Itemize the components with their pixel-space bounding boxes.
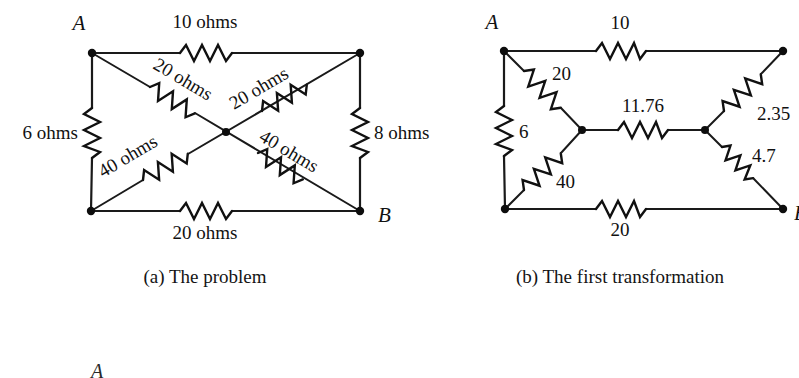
- panel-b-group: A B 10 6 20 20 40 11.76 2.35 4.7 (b) The…: [484, 10, 799, 288]
- node-a-top-left: [88, 49, 96, 57]
- panel-a-diag-tr-resistor-label: 20 ohms: [225, 62, 292, 113]
- panel-b-arm-ur-resistor-label: 2.35: [757, 103, 790, 124]
- wire-b-arm-ur-end: [761, 51, 783, 74]
- panel-a-terminal-a-label: A: [71, 11, 86, 35]
- panel-b-arm-ul-resistor-label: 20: [552, 63, 571, 84]
- circuit-figure-svg: A B 10 ohms 6 ohms 8 ohms 20 ohms 20 ohm…: [0, 0, 799, 378]
- panel-b-caption: (b) The first transformation: [516, 266, 725, 288]
- panel-b-terminal-b-label: B: [794, 201, 799, 225]
- wire-b-arm-ul-start: [504, 51, 524, 71]
- wire-b-arm-lr-end: [753, 178, 783, 209]
- panel-a-group: A B 10 ohms 6 ohms 8 ohms 20 ohms 20 ohm…: [23, 11, 430, 288]
- panel-b-arm-ll-resistor-label: 40: [556, 171, 575, 192]
- resistor-b-bottom-zigzag: [596, 201, 646, 217]
- wire-b-arm-ll-end: [561, 130, 582, 153]
- panel-b-terminal-a-label: A: [484, 10, 499, 34]
- wire-a-diag-tlbr-start: [92, 53, 150, 87]
- resistor-b-left-zigzag: [496, 106, 512, 156]
- node-b-star-left: [578, 126, 586, 134]
- wire-a-left-lower: [91, 158, 92, 211]
- node-a-bottom-right: [356, 207, 364, 215]
- panel-a-left-resistor-label: 6 ohms: [23, 122, 78, 143]
- resistor-a-left-zigzag: [84, 108, 100, 158]
- resistor-b-top-zigzag: [596, 43, 646, 59]
- figure-canvas: A B 10 ohms 6 ohms 8 ohms 20 ohms 20 ohm…: [0, 0, 799, 378]
- wire-b-arm-ur-start: [705, 111, 724, 130]
- node-b-top-right: [779, 47, 787, 55]
- panel-b-bottom-resistor-label: 20: [611, 219, 630, 240]
- resistor-a-top-zigzag: [180, 45, 232, 61]
- node-b-top-left: [500, 47, 508, 55]
- panel-a-bottom-resistor-label: 20 ohms: [173, 222, 238, 243]
- panel-a-diag-tl-resistor-label: 20 ohms: [150, 53, 217, 104]
- node-b-bottom-right: [779, 205, 787, 213]
- panel-a-top-resistor-label: 10 ohms: [173, 11, 238, 32]
- wire-b-arm-ul-end: [561, 108, 582, 130]
- panel-b-bridge-resistor-label: 11.76: [622, 95, 664, 116]
- node-a-bottom-left: [87, 207, 95, 215]
- wire-a-diag-bltr-start: [91, 180, 143, 211]
- panel-c-terminal-a-label: A: [89, 360, 104, 378]
- panel-b-left-resistor-label: 6: [519, 121, 529, 142]
- resistor-b-bridge-zigzag: [618, 122, 668, 138]
- panel-c-partial-group: A: [89, 360, 104, 378]
- resistor-a-right-zigzag: [352, 108, 368, 158]
- resistor-a-bottom-zigzag: [180, 203, 232, 219]
- wire-b-left-lower: [504, 156, 505, 209]
- node-a-top-right: [356, 49, 364, 57]
- node-b-bottom-left: [501, 205, 509, 213]
- wire-a-diag-tlbr-end: [195, 113, 360, 211]
- node-a-center: [222, 128, 230, 136]
- panel-a-caption: (a) The problem: [143, 266, 266, 288]
- node-b-star-right: [701, 126, 709, 134]
- panel-b-top-resistor-label: 10: [611, 12, 630, 33]
- panel-b-arm-lr-resistor-label: 4.7: [752, 145, 776, 166]
- panel-a-terminal-b-label: B: [378, 203, 391, 227]
- panel-a-right-resistor-label: 8 ohms: [374, 122, 429, 143]
